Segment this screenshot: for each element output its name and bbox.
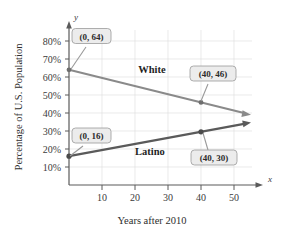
x-tick-label-50: 50 <box>229 192 239 203</box>
series-white-point-0-64 <box>67 67 72 72</box>
callout-latino-start-label: (0, 16) <box>80 131 104 141</box>
y-tick-label-40: 40% <box>43 108 61 119</box>
x-axis-title: Years after 2010 <box>118 215 187 226</box>
x-tick-label-40: 40 <box>196 192 206 203</box>
y-tick-label-10: 10% <box>43 162 61 173</box>
x-axis-variable-label: x <box>267 174 272 184</box>
y-tick-label-60: 60% <box>43 72 61 83</box>
callout-latino-mid-label: (40, 30) <box>200 153 229 163</box>
series-latino-point-0-16 <box>66 154 71 159</box>
y-tick-label-50: 50% <box>43 90 61 101</box>
series-label-latino: Latino <box>135 146 165 157</box>
y-tick-label-70: 70% <box>43 54 61 65</box>
callout-white-start-label: (0, 64) <box>80 32 104 42</box>
x-tick-label-30: 30 <box>163 192 173 203</box>
y-axis-title: Percentage of U.S. Population <box>13 43 24 171</box>
y-tick-label-20: 20% <box>43 144 61 155</box>
y-tick-label-80: 80% <box>43 36 61 47</box>
y-tick-label-30: 30% <box>43 126 61 137</box>
y-axis-variable-label: y <box>73 12 78 22</box>
x-tick-label-20: 20 <box>130 192 140 203</box>
series-label-white: White <box>138 64 166 75</box>
population-line-chart: 80% 70% 60% 50% 40% 30% 20% 10% 10 20 30… <box>0 0 281 235</box>
callout-white-mid-label: (40, 46) <box>199 69 228 79</box>
chart-figure: 80% 70% 60% 50% 40% 30% 20% 10% 10 20 30… <box>0 0 281 235</box>
x-tick-label-10: 10 <box>97 192 107 203</box>
